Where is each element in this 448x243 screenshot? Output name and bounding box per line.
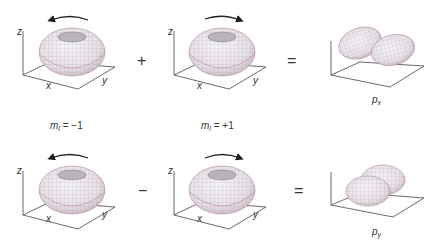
axis-label-x: x <box>45 213 52 224</box>
equals-sign: = <box>287 52 296 69</box>
ml-label-minus1: ml = −1 <box>50 120 83 132</box>
orbital-label-py: py <box>371 226 382 239</box>
torus-ml-minus1-row1: z x y <box>16 17 115 92</box>
torus-ml-plus1-row1: z x y <box>167 16 266 91</box>
axis-label-z: z <box>167 26 173 37</box>
axis-label-y: y <box>252 209 259 220</box>
axis-label-x: x <box>196 213 203 224</box>
axis-label-x: x <box>196 80 203 91</box>
py-orbital: py <box>331 165 424 239</box>
axis-label-z: z <box>16 26 22 37</box>
rotation-arrow-counterclockwise <box>51 17 88 21</box>
rotation-arrow-clockwise <box>205 155 240 159</box>
axis-label-z: z <box>16 165 22 176</box>
axis-label-z: z <box>167 165 173 176</box>
axis-label-y: y <box>101 209 108 220</box>
rotation-arrow-clockwise <box>205 16 240 20</box>
equals-sign: = <box>294 182 303 199</box>
orbital-diagram: z x y + z x y = px ml = −1 ml = +1 z x y… <box>0 0 448 243</box>
torus-ml-plus1-row2: z x y <box>167 155 266 230</box>
px-orbital: px <box>331 21 424 106</box>
rotation-arrow-counterclockwise <box>51 155 88 159</box>
axis-label-y: y <box>101 75 108 86</box>
minus-operator: − <box>138 182 147 199</box>
axis-label-y: y <box>252 75 259 86</box>
plus-operator: + <box>137 52 146 69</box>
ml-label-plus1: ml = +1 <box>201 120 234 132</box>
axis-label-x: x <box>45 80 52 91</box>
orbital-label-px: px <box>371 94 382 106</box>
torus-ml-minus1-row2: z x y <box>16 155 115 230</box>
